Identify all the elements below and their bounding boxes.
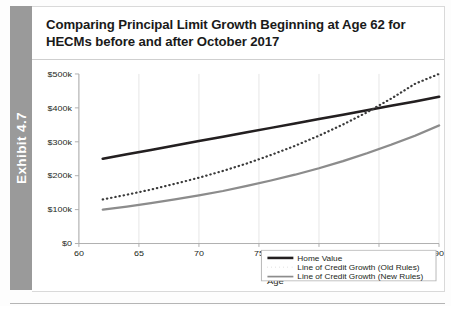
series-line [103, 97, 439, 159]
legend-label: Home Value [297, 254, 342, 262]
title-container: Comparing Principal Limit Growth Beginni… [32, 7, 444, 60]
y-tick-label: $0 [62, 239, 72, 248]
y-tick-label: $100k [47, 205, 72, 214]
exhibit-label: Exhibit 4.7 [14, 112, 29, 184]
y-tick-label: $400k [47, 103, 72, 112]
y-axis-ticks: $0$100k$200k$300k$400k$500k [47, 69, 78, 248]
x-tick-label: 60 [74, 249, 84, 258]
exhibit-page: Exhibit 4.7 Comparing Principal Limit Gr… [0, 0, 451, 326]
page-bottom-margin [0, 306, 451, 326]
legend-label: Line of Credit Growth (Old Rules) [297, 264, 420, 272]
footer-rule [10, 303, 445, 304]
legend-label: Line of Credit Growth (New Rules) [297, 273, 423, 281]
x-tick-label: 65 [134, 249, 144, 258]
page-title: Comparing Principal Limit Growth Beginni… [46, 16, 430, 51]
series-line [103, 126, 439, 210]
x-tick-label: 70 [194, 249, 204, 258]
y-tick-label: $500k [47, 69, 72, 78]
chart-legend: Home ValueLine of Credit Growth (Old Rul… [261, 250, 436, 281]
exhibit-card: Comparing Principal Limit Growth Beginni… [32, 6, 445, 292]
data-series-group [103, 74, 439, 210]
y-tick-label: $300k [47, 137, 72, 146]
chart-container: $0$100k$200k$300k$400k$500k 606570758085… [32, 57, 444, 291]
exhibit-tab: Exhibit 4.7 [10, 6, 32, 290]
line-chart: $0$100k$200k$300k$400k$500k 606570758085… [32, 57, 444, 291]
y-tick-label: $200k [47, 171, 72, 180]
